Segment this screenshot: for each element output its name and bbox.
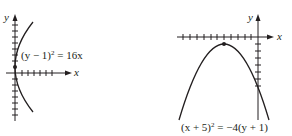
right-y-arrow-icon	[256, 14, 261, 21]
left-equation: (y − 1)2 = 16x	[21, 49, 83, 62]
left-x-arrow-icon	[65, 71, 72, 76]
right-x-label: x	[276, 30, 282, 42]
left-parabola	[15, 22, 33, 112]
right-y-label: y	[247, 11, 253, 23]
left-y-label: y	[3, 11, 9, 23]
left-vertex-point	[13, 65, 17, 69]
left-graph	[6, 14, 72, 121]
right-parabola	[179, 44, 269, 120]
right-graph	[177, 14, 274, 120]
figure: y x (y − 1)2 = 16x	[0, 0, 292, 136]
left-x-label: x	[73, 66, 79, 78]
right-equation: (x + 5)2 = −4(y + 1)	[181, 121, 268, 134]
left-y-arrow-icon	[13, 14, 18, 21]
right-x-arrow-icon	[267, 35, 274, 40]
right-vertex-point	[222, 42, 226, 46]
